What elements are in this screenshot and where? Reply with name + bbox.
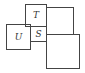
square-diagram: T U S [0, 0, 85, 73]
square-u-label: U [15, 33, 23, 42]
square-u: U [6, 24, 31, 50]
square-t-label: T [33, 11, 39, 20]
square-s: S [30, 26, 47, 42]
square-bottom-right [46, 34, 80, 69]
square-top-right [46, 7, 74, 35]
square-s-label: S [35, 30, 41, 39]
